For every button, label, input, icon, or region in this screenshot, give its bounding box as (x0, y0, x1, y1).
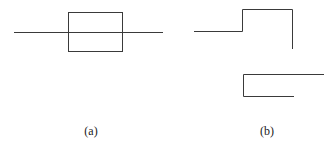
panel-a-drawing (14, 13, 163, 52)
diagram-canvas (0, 0, 335, 151)
panel-a-label: (a) (84, 124, 97, 139)
lower-step-polyline (244, 75, 325, 97)
upper-step-polyline (194, 10, 293, 50)
panel-b-label: (b) (260, 124, 274, 139)
panel-b-drawing (194, 10, 324, 97)
